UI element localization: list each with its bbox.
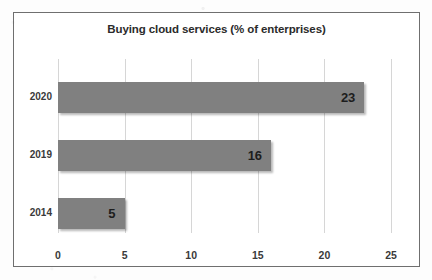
bar-value-label: 16 <box>248 148 262 163</box>
gridline-x-25 <box>391 59 392 233</box>
bar-value-label: 5 <box>108 206 115 221</box>
bar-2019[interactable] <box>58 140 271 171</box>
bar-row[interactable]: 16 <box>58 140 271 171</box>
category-label-2019: 2019 <box>16 149 52 160</box>
bar-value-label: 23 <box>341 90 355 105</box>
x-tick-label: 10 <box>179 249 203 261</box>
bar-2020[interactable] <box>58 82 364 113</box>
category-label-2014: 2014 <box>16 207 52 218</box>
chart-frame: Buying cloud services (% of enterprises)… <box>13 12 420 267</box>
x-tick-label: 25 <box>379 249 403 261</box>
x-tick-label: 0 <box>46 249 70 261</box>
chart-title: Buying cloud services (% of enterprises) <box>14 23 419 35</box>
bar-row[interactable]: 23 <box>58 82 364 113</box>
x-tick-label: 20 <box>312 249 336 261</box>
x-tick-label: 15 <box>246 249 270 261</box>
x-tick-label: 5 <box>113 249 137 261</box>
category-label-2020: 2020 <box>16 91 52 102</box>
bar-row[interactable]: 5 <box>58 198 125 229</box>
scanned-page: Buying cloud services (% of enterprises)… <box>0 0 432 280</box>
